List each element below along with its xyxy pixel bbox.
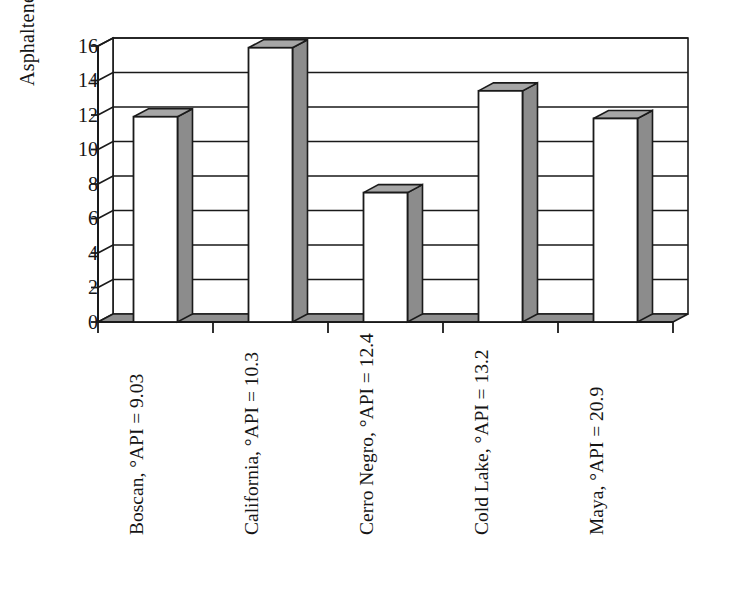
x-tick-label: Cerro Negro, °API = 12.4 xyxy=(357,333,377,535)
x-tick-label: Maya, °API = 20.9 xyxy=(587,387,607,535)
bar-chart-figure: Asphaltenes, wt% 16 14 12 10 8 6 4 2 0 xyxy=(0,0,730,589)
x-tick-label: Cold Lake, °API = 13.2 xyxy=(472,349,492,535)
x-tick-label: Boscan, °API = 9.03 xyxy=(127,374,147,535)
x-tick-label: California, °API = 10.3 xyxy=(242,352,262,535)
x-axis-tick-labels: Boscan, °API = 9.03 California, °API = 1… xyxy=(0,0,730,589)
